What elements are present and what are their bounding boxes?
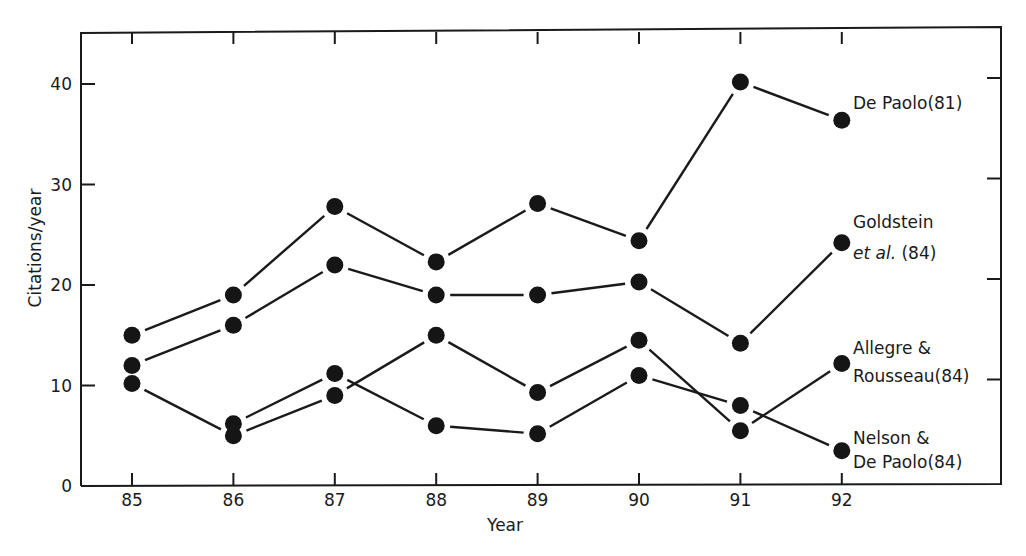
data-point-marker <box>631 232 648 249</box>
x-tick-label: 92 <box>831 490 853 510</box>
line-chart: 8586878889909192 010203040 De Paolo(81)G… <box>0 0 1026 556</box>
series-label: De Paolo(84) <box>853 452 962 472</box>
series-segment <box>450 427 523 433</box>
series-lines <box>144 87 831 445</box>
data-point-marker <box>124 327 141 344</box>
series-segment <box>246 401 321 431</box>
series-label: et al. (84) <box>853 243 936 263</box>
data-point-marker <box>225 287 242 304</box>
data-point-marker <box>732 73 749 90</box>
data-point-marker <box>631 273 648 290</box>
y-tick-label: 20 <box>50 275 72 295</box>
x-tick-label: 86 <box>223 490 245 510</box>
series-segment <box>145 330 220 360</box>
series-label: Nelson & <box>853 428 930 448</box>
series-segment <box>649 350 730 422</box>
series-label: Allegre & <box>853 338 931 358</box>
data-point-marker <box>732 335 749 352</box>
data-point-marker <box>529 425 546 442</box>
data-point-marker <box>732 422 749 439</box>
data-point-marker <box>428 287 445 304</box>
series-label: De Paolo(81) <box>853 93 962 113</box>
series-segment <box>551 284 625 293</box>
series-labels: De Paolo(81)Goldsteinet al. (84)Allegre … <box>853 93 970 472</box>
data-point-marker <box>529 384 546 401</box>
series-segment <box>750 253 832 334</box>
data-point-marker <box>428 327 445 344</box>
series-markers <box>124 73 851 459</box>
x-axis-title: Year <box>486 515 523 535</box>
data-point-marker <box>225 415 242 432</box>
series-segment <box>647 94 733 229</box>
series-segment <box>347 342 424 388</box>
y-tick-label: 10 <box>50 376 72 396</box>
y-tick-label: 0 <box>61 476 72 496</box>
data-point-marker <box>833 234 850 251</box>
data-point-marker <box>833 112 850 129</box>
data-point-marker <box>631 332 648 349</box>
series-segment <box>753 411 829 445</box>
series-segment <box>550 382 627 426</box>
series-segment <box>246 380 322 418</box>
data-point-marker <box>428 417 445 434</box>
series-segment <box>348 269 423 291</box>
x-tick-label: 89 <box>527 490 549 510</box>
data-point-marker <box>124 357 141 374</box>
series-segment <box>145 300 220 330</box>
series-label: Goldstein <box>853 212 934 232</box>
data-point-marker <box>124 375 141 392</box>
data-point-marker <box>529 195 546 212</box>
series-segment <box>550 347 627 386</box>
data-point-marker <box>326 387 343 404</box>
series-segment <box>245 272 322 318</box>
series-segment <box>347 213 424 255</box>
y-tick-label: 30 <box>50 175 72 195</box>
data-point-marker <box>326 198 343 215</box>
series-segment <box>448 211 525 255</box>
data-point-marker <box>529 287 546 304</box>
data-point-marker <box>225 317 242 334</box>
series-segment <box>651 289 728 336</box>
y-axis-title: Citations/year <box>25 189 45 308</box>
series-segment <box>144 390 221 429</box>
data-point-marker <box>631 367 648 384</box>
x-tick-label: 91 <box>730 490 752 510</box>
series-label: Rousseau(84) <box>853 366 970 386</box>
x-tick-label: 85 <box>121 490 143 510</box>
series-segment <box>448 342 525 386</box>
series-segment <box>652 379 727 401</box>
series-segment <box>347 380 424 419</box>
series-segment <box>754 87 829 115</box>
data-point-marker <box>326 365 343 382</box>
x-tick-label: 87 <box>324 490 346 510</box>
data-point-marker <box>833 355 850 372</box>
data-point-marker <box>428 253 445 270</box>
x-tick-label: 88 <box>425 490 447 510</box>
data-point-marker <box>326 256 343 273</box>
series-segment <box>551 208 626 236</box>
x-tick-label: 90 <box>628 490 650 510</box>
data-point-marker <box>833 442 850 459</box>
y-tick-label: 40 <box>50 74 72 94</box>
series-segment <box>244 216 324 286</box>
data-point-marker <box>732 397 749 414</box>
